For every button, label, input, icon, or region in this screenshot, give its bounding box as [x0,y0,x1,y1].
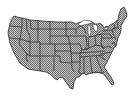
us-map [0,0,134,96]
